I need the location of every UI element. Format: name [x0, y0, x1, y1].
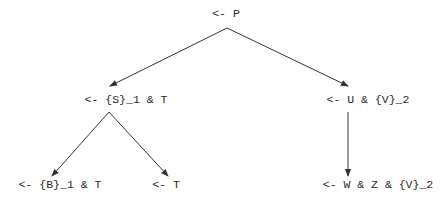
- node-right-child: <- W & Z & {V}_2: [323, 178, 433, 192]
- node-left: <- {S}_1 & T: [85, 93, 168, 107]
- edge-root-right: [227, 28, 348, 86]
- node-left-left: <- {B}_1 & T: [19, 178, 102, 192]
- node-right: <- U & {V}_2: [327, 93, 410, 107]
- edge-left-leftleft: [52, 112, 109, 176]
- edge-left-leftright: [109, 112, 168, 176]
- edge-root-left: [110, 28, 227, 86]
- node-left-right: <- T: [152, 178, 180, 192]
- node-root: <- P: [212, 7, 240, 21]
